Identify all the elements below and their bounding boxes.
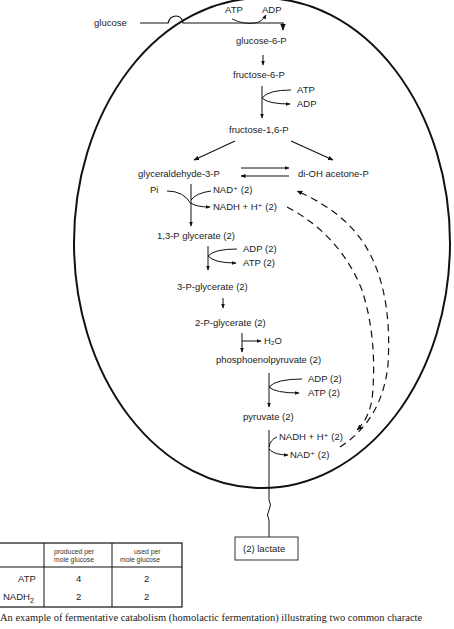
glucose-6-phosphate: glucose-6-P — [236, 35, 287, 46]
phosphoenolpyruvate: phosphoenolpyruvate (2) — [216, 354, 321, 365]
glucose-transport-arrow — [140, 15, 283, 30]
row-nadh-label: NADH2 — [3, 591, 34, 604]
dihydroxyacetone-phosphate: di-OH acetone-P — [298, 168, 369, 179]
adp-label-bpg: ADP (2) — [243, 243, 277, 254]
adp-label-step1: ADP — [262, 4, 282, 15]
lactate-label: (2) lactate — [243, 543, 285, 554]
atp-label-step3: ATP — [297, 84, 315, 95]
nadh-recycle-dashed-arrows — [287, 191, 389, 447]
pi-label: Pi — [150, 184, 158, 195]
figure-caption: An example of fermentative catabolism (h… — [0, 612, 454, 623]
nadh-label-pyruvate: NADH + H⁺ (2) — [279, 431, 343, 442]
yield-table: produced per mole glucose used per mole … — [0, 543, 182, 607]
header-produced-line2: mole glucose — [54, 556, 94, 564]
row-atp-label: ATP — [18, 573, 36, 584]
nadh-label-g3p: NADH + H⁺ (2) — [213, 201, 277, 212]
fructose-1-6-bisphosphate: fructose-1,6-P — [229, 124, 289, 135]
1-3-bisphosphoglycerate: 1,3-P glycerate (2) — [157, 230, 235, 241]
2-phosphoglycerate: 2-P-glycerate (2) — [195, 317, 266, 328]
header-used-line1: used per — [134, 548, 161, 556]
row-nadh-used: 2 — [144, 591, 149, 602]
adp-label-pep: ADP (2) — [308, 373, 342, 384]
fructose-6-phosphate: fructose-6-P — [233, 69, 285, 80]
3-phosphoglycerate: 3-P-glycerate (2) — [177, 281, 248, 292]
water-label: H₂O — [264, 335, 282, 346]
atp-label-bpg: ATP (2) — [243, 257, 275, 268]
atp-label-pep: ATP (2) — [308, 387, 340, 398]
nad-label-pyruvate: NAD⁺ (2) — [290, 449, 329, 460]
glucose-label: glucose — [94, 17, 127, 28]
header-produced-line1: produced per — [54, 548, 95, 556]
row-nadh-produced: 2 — [76, 591, 81, 602]
row-atp-used: 2 — [144, 573, 149, 584]
adp-label-step3: ADP — [297, 98, 317, 109]
row-atp-produced: 4 — [76, 573, 81, 584]
header-used-line2: mole glucose — [120, 556, 160, 564]
glyceraldehyde-3-phosphate: glyceraldehyde-3-P — [138, 168, 220, 179]
homolactic-fermentation-diagram: glucose ATP ADP glucose-6-P fructose-6-P… — [0, 0, 454, 629]
atp-label-step1: ATP — [225, 4, 243, 15]
pyruvate: pyruvate (2) — [243, 411, 294, 422]
nad-label-g3p: NAD⁺ (2) — [213, 184, 252, 195]
